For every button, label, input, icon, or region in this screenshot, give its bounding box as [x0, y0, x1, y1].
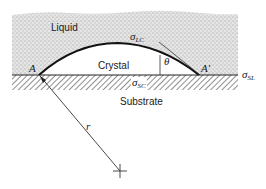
label-point-a-prime: A′ [201, 63, 210, 74]
sigma-subscript: SL [247, 74, 254, 82]
sigma-subscript: SC [137, 82, 145, 90]
radius-line [40, 76, 120, 171]
label-sigma-lc: σLC [130, 31, 144, 44]
diagram-canvas [0, 0, 266, 189]
center-cross-icon [113, 164, 127, 178]
label-theta: θ [164, 56, 169, 67]
label-sigma-sl: σSL [242, 69, 255, 82]
label-crystal: Crystal [98, 61, 129, 71]
nucleation-diagram: Liquid Crystal Substrate A A′ θ r σLC σS… [0, 0, 266, 189]
label-liquid: Liquid [51, 23, 78, 33]
label-sigma-sc: σSC [131, 77, 147, 90]
label-substrate: Substrate [120, 97, 163, 107]
label-point-a: A [29, 63, 36, 74]
label-radius: r [86, 121, 90, 132]
sigma-subscript: LC [135, 36, 144, 44]
